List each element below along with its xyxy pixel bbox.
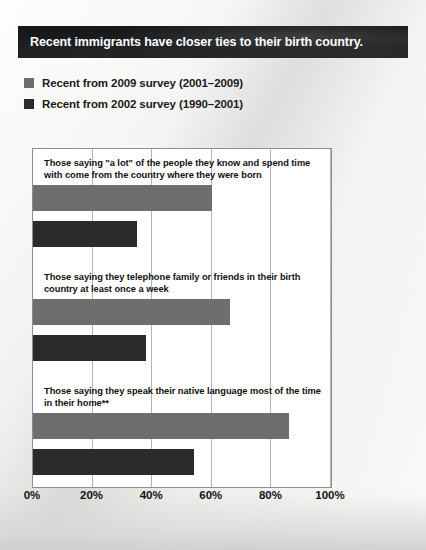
- chart-title-banner: Recent immigrants have closer ties to th…: [18, 26, 408, 58]
- legend-swatch-2009-icon: [24, 78, 34, 88]
- chart-legend: Recent from 2009 survey (2001–2009) Rece…: [24, 72, 384, 114]
- bar-2009: [33, 413, 289, 439]
- x-tick-label: 20%: [80, 489, 103, 501]
- chart-group: Those saying they telephone family or fr…: [33, 271, 331, 361]
- category-label: Those saying "a lot" of the people they …: [44, 157, 325, 182]
- x-tick-label: 100%: [315, 489, 344, 501]
- bar-2009: [33, 185, 212, 211]
- legend-label-2009: Recent from 2009 survey (2001–2009): [42, 77, 243, 89]
- chart-plot-area: Those saying "a lot" of the people they …: [32, 148, 332, 488]
- legend-item-2002: Recent from 2002 survey (1990–2001): [24, 93, 384, 114]
- legend-swatch-2002-icon: [24, 99, 34, 109]
- x-tick-label: 60%: [199, 489, 222, 501]
- chart-group: Those saying "a lot" of the people they …: [33, 157, 331, 247]
- x-axis-tick-labels: 0%20%40%60%80%100%: [32, 489, 330, 509]
- legend-label-2002: Recent from 2002 survey (1990–2001): [42, 98, 243, 110]
- page-title: Recent immigrants have closer ties to th…: [30, 35, 363, 49]
- bar-2002: [33, 221, 137, 247]
- x-tick-label: 40%: [140, 489, 163, 501]
- x-tick-label: 80%: [259, 489, 282, 501]
- bar-2002: [33, 449, 194, 475]
- category-label: Those saying they telephone family or fr…: [44, 271, 325, 296]
- chart-group: Those saying they speak their native lan…: [33, 385, 331, 475]
- bar-2009: [33, 299, 230, 325]
- legend-item-2009: Recent from 2009 survey (2001–2009): [24, 72, 384, 93]
- x-tick-label: 0%: [24, 489, 41, 501]
- category-label: Those saying they speak their native lan…: [44, 385, 325, 410]
- bar-2002: [33, 335, 146, 361]
